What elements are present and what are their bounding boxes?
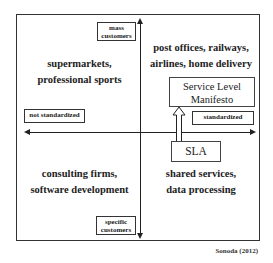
quadrant-text: software development — [22, 182, 137, 198]
quadrant-top-right: post offices, railways, airlines, home d… — [142, 40, 260, 72]
quadrant-top-left: supermarkets, professional sports — [22, 56, 137, 88]
box-text: Service Level — [170, 80, 254, 93]
quadrant-text: shared services, — [142, 166, 260, 182]
service-level-manifesto-box: Service Level Manifesto — [169, 77, 255, 107]
axis-label-specific-customers: specific customers — [96, 216, 136, 235]
label-text: standardized — [204, 113, 243, 121]
box-text: SLA — [185, 145, 207, 157]
vertical-axis — [140, 22, 141, 237]
label-line: customers — [98, 32, 135, 40]
arrow-right-icon — [250, 129, 256, 135]
quadrant-bottom-left: consulting firms, software development — [22, 166, 137, 198]
box-text: Manifesto — [170, 93, 254, 106]
label-line: specific — [97, 218, 135, 226]
horizontal-axis — [27, 132, 252, 133]
quadrant-text: data processing — [142, 182, 260, 198]
quadrant-text: consulting firms, — [22, 166, 137, 182]
quadrant-text: airlines, home delivery — [142, 56, 260, 72]
arrow-down-icon — [137, 233, 143, 239]
axis-label-mass-customers: mass customers — [97, 22, 136, 41]
label-line: customers — [97, 226, 135, 234]
axis-label-not-standardized: not standardized — [24, 109, 85, 123]
arrow-up-icon — [137, 18, 143, 24]
hollow-up-arrow-icon — [172, 106, 186, 144]
label-text: not standardized — [29, 111, 79, 119]
label-line: mass — [98, 24, 135, 32]
quadrant-text: supermarkets, — [22, 56, 137, 72]
arrow-left-icon — [24, 129, 30, 135]
sla-box: SLA — [171, 141, 221, 162]
axis-label-standardized: standardized — [192, 111, 254, 125]
quadrant-text: post offices, railways, — [142, 40, 260, 56]
quadrant-text: professional sports — [22, 72, 137, 88]
quadrant-bottom-right: shared services, data processing — [142, 166, 260, 198]
source-citation: Sonoda (2012) — [215, 247, 258, 255]
